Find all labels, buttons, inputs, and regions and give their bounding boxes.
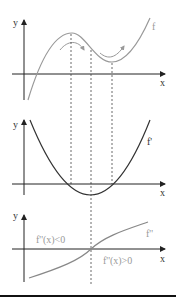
mid-y-label: y bbox=[13, 119, 18, 130]
curve-f bbox=[28, 18, 150, 100]
arrow-increasing bbox=[100, 46, 124, 57]
neg-region-label: f''(x)<0 bbox=[36, 234, 65, 246]
bot-x-label: x bbox=[160, 253, 165, 264]
mid-curve-label: f' bbox=[147, 136, 152, 147]
mid-x-label: x bbox=[160, 187, 165, 198]
arrow-decreasing bbox=[60, 43, 84, 51]
top-y-label: y bbox=[13, 17, 18, 28]
top-x-label: x bbox=[160, 77, 165, 88]
calculus-diagram: y x f y x f' y x f'' f''(x)<0 f''(x)>0 bbox=[0, 0, 179, 299]
bot-curve-label: f'' bbox=[146, 228, 153, 239]
top-curve-label: f bbox=[152, 21, 156, 32]
curve-fsecond bbox=[29, 222, 148, 278]
panel-fprime bbox=[12, 120, 165, 195]
bot-y-label: y bbox=[13, 210, 18, 221]
panel-fsecond bbox=[12, 215, 165, 282]
panel-f bbox=[12, 18, 165, 100]
pos-region-label: f''(x)>0 bbox=[103, 255, 132, 267]
